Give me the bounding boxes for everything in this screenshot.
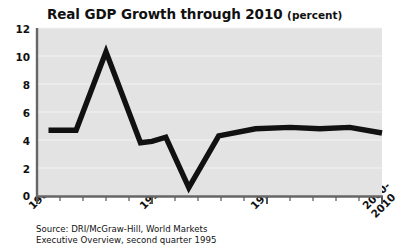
source-line-1: Source: DRI/McGraw-Hill, World Markets <box>36 224 216 235</box>
gdp-growth-chart-figure: Real GDP Growth through 2010 (percent) 1… <box>0 0 409 252</box>
x-axis-ticks <box>37 197 382 204</box>
source-note: Source: DRI/McGraw-Hill, World Markets E… <box>36 224 216 245</box>
source-line-2: Executive Overview, second quarter 1995 <box>36 235 216 246</box>
plot-area <box>0 0 409 252</box>
